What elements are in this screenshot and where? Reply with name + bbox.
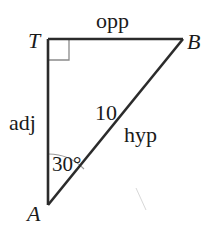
- right-triangle-diagram: T B A opp adj 10 hyp 30°: [0, 0, 220, 229]
- side-label-hyp: hyp: [124, 122, 157, 147]
- side-label-adj: adj: [9, 110, 36, 135]
- side-length-hyp: 10: [95, 100, 117, 125]
- side-label-opp: opp: [96, 8, 129, 33]
- right-angle-marker: [48, 39, 69, 60]
- angle-label-a: 30°: [52, 152, 81, 176]
- vertex-label-t: T: [28, 28, 42, 53]
- stray-mark: [136, 188, 146, 210]
- vertex-label-b: B: [187, 29, 200, 54]
- vertex-label-a: A: [25, 201, 41, 226]
